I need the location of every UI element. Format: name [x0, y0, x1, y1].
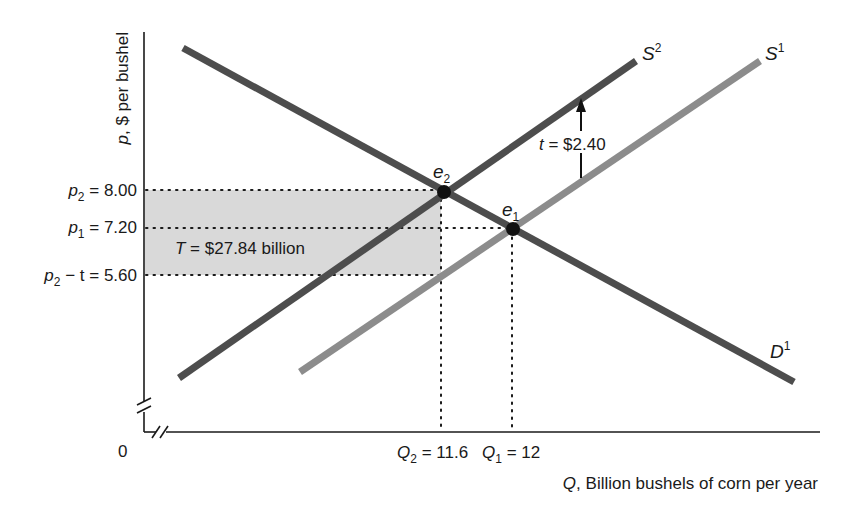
y-tick-p2-minus-t: p2 − t = 5.60: [43, 266, 137, 289]
x-tick-q1: Q1 = 12: [482, 443, 540, 466]
tax-revenue-area: [145, 190, 441, 275]
origin-label: 0: [118, 442, 127, 461]
label-s2: S2: [642, 41, 662, 64]
equilibrium-point-e2: [437, 185, 451, 199]
tax-revenue-label: T = $27.84 billion: [175, 239, 305, 258]
label-s1: S1: [765, 41, 785, 64]
x-axis-title: Q, Billion bushels of corn per year: [563, 474, 818, 493]
equilibrium-point-e1: [506, 222, 520, 236]
y-tick-p2: p2 = 8.00: [67, 181, 137, 204]
chart-canvas: S2 S1 D1 e2 e1 t = $2.40 T = $27.84 bill…: [0, 0, 842, 518]
y-tick-p1: p1 = 7.20: [67, 218, 137, 241]
label-d1: D1: [770, 339, 791, 362]
y-axis-title: p, $ per bushel: [113, 32, 132, 145]
x-tick-q2: Q2 = 11.6: [397, 443, 468, 466]
tax-label: t = $2.40: [539, 135, 606, 154]
